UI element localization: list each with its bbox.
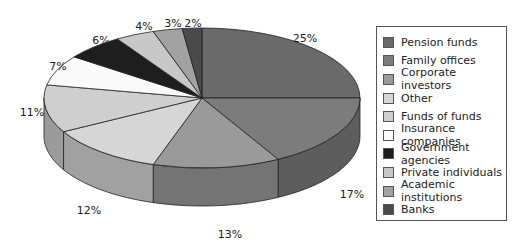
legend-swatch [383, 55, 394, 66]
legend-swatch [383, 204, 394, 215]
legend-swatch [383, 93, 394, 104]
legend-label: Other [401, 92, 432, 105]
legend-swatch [383, 148, 394, 159]
legend-swatch [383, 130, 394, 141]
slice-label-family: 17% [340, 188, 364, 201]
legend-label: Pension funds [401, 36, 478, 49]
slice-label-academic: 3% [164, 17, 181, 30]
legend-item: Pension funds [383, 33, 506, 52]
slice-label-funds: 11% [20, 106, 44, 119]
legend-item: Corporate investors [383, 70, 506, 89]
legend-label: Banks [401, 203, 434, 216]
legend-swatch [383, 74, 394, 85]
legend-label: Family offices [401, 54, 476, 67]
slice-label-government: 6% [92, 34, 109, 47]
slice-label-other: 12% [77, 204, 101, 217]
legend-swatch [383, 186, 394, 197]
legend-label: Private individuals [401, 166, 502, 179]
legend-label: Funds of funds [401, 110, 482, 123]
slice-label-corporate: 13% [218, 228, 242, 241]
legend-label: Corporate investors [401, 66, 506, 92]
legend-label: Academic institutions [401, 178, 506, 204]
legend-item: Government agencies [383, 145, 506, 164]
slice-label-pension: 25% [293, 32, 317, 45]
legend-label: Government agencies [401, 141, 506, 167]
legend-swatch [383, 167, 394, 178]
legend-swatch [383, 37, 394, 48]
legend-item: Academic institutions [383, 182, 506, 201]
slice-label-insurance: 7% [49, 60, 66, 73]
slice-label-banks: 2% [184, 17, 201, 30]
legend: Pension funds Family offices Corporate i… [376, 26, 507, 221]
slice-label-private: 4% [135, 20, 152, 33]
legend-swatch [383, 111, 394, 122]
